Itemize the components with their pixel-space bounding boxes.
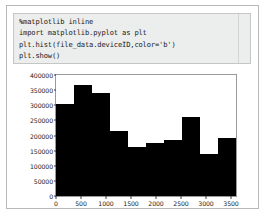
y-tick-mark [54,105,57,106]
histogram-bar [128,147,146,196]
code-line: import matplotlib.pyplot as plt [19,27,250,38]
y-tick-mark [54,135,57,136]
y-tick-mark [54,120,57,121]
x-tick-label: 1500 [123,200,138,207]
histogram-bar [74,85,92,196]
x-tick-mark [231,196,232,199]
y-tick-label: 200000 [30,132,53,139]
x-tick-mark [106,196,107,199]
y-tick-label: 50000 [34,177,53,184]
y-tick-label: 400000 [30,72,53,79]
histogram-bar [92,93,110,196]
histogram-bars [56,75,236,196]
code-cell[interactable]: %matplotlib inline import matplotlib.pyp… [13,13,251,64]
histogram-bar [182,117,200,196]
x-tick-label: 3000 [198,200,213,207]
code-line: plt.show() [19,50,250,61]
y-tick-label: 350000 [30,87,53,94]
histogram-axes: 0500001000001500002000002500003000003500… [55,74,237,197]
x-tick-label: 0 [54,200,58,207]
plot-output: 0500001000001500002000002500003000003500… [7,64,258,208]
notebook-frame: %matplotlib inline import matplotlib.pyp… [6,5,259,209]
code-line: plt.hist(file_data.deviceID,color='b') [19,39,250,50]
y-tick-mark [54,75,57,76]
x-tick-mark [81,196,82,199]
y-tick-label: 300000 [30,102,53,109]
histogram-bar [110,131,128,196]
x-tick-mark [206,196,207,199]
x-tick-label: 3500 [223,200,238,207]
x-tick-mark [156,196,157,199]
x-tick-mark [131,196,132,199]
code-cell-source[interactable]: %matplotlib inline import matplotlib.pyp… [19,16,250,61]
y-tick-label: 100000 [30,162,53,169]
y-tick-label: 250000 [30,117,53,124]
code-cell-divider [238,14,239,63]
code-line: %matplotlib inline [19,16,250,27]
y-tick-mark [54,150,57,151]
y-tick-mark [54,90,57,91]
y-tick-label: 150000 [30,147,53,154]
x-tick-mark [181,196,182,199]
histogram-bar [146,143,164,196]
y-tick-mark [54,165,57,166]
x-tick-label: 500 [75,200,87,207]
histogram-bar [56,104,74,196]
x-tick-label: 2500 [173,200,188,207]
x-tick-label: 1000 [98,200,113,207]
histogram-bar [218,138,236,196]
x-tick-label: 2000 [148,200,163,207]
y-tick-label: 0 [49,193,53,200]
y-tick-mark [54,180,57,181]
histogram-bar [200,154,218,196]
x-tick-mark [56,196,57,199]
histogram-bar [164,140,182,196]
